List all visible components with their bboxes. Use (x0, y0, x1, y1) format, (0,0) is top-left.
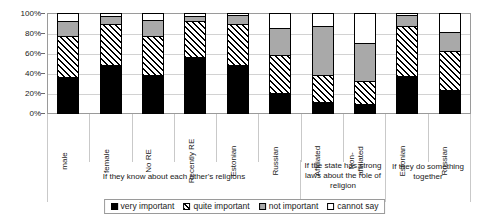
legend-swatch-icon (259, 203, 266, 210)
bar-slot (259, 13, 301, 114)
chart-legend: very important quite important not impor… (104, 199, 386, 214)
bar-segment-very-important (143, 76, 163, 113)
bar-segment-very-important (228, 66, 248, 113)
x-axis-labels: malefemaleNo RERecently REEstonianRussia… (47, 114, 471, 162)
x-label-slot: Estonian (386, 114, 428, 162)
y-tick-label: 100% (21, 10, 41, 18)
bar-segment-not-important (101, 17, 121, 25)
bar-segment-very-important (355, 105, 375, 113)
stacked-bar[interactable] (354, 13, 376, 114)
legend-swatch-icon (327, 203, 334, 210)
x-label-slot: Non- affiliated (344, 114, 386, 162)
group-caption: If they know about each other's religion… (47, 160, 301, 202)
bar-segment-very-important (101, 66, 121, 113)
bar-segment-not-important (313, 27, 333, 77)
bar-segment-cannot-say (440, 14, 460, 33)
y-tick-label: 0% (29, 110, 41, 118)
bar-slot (132, 13, 174, 114)
x-label-slot: Russian (429, 114, 471, 162)
y-tick-label: 40% (25, 70, 41, 78)
x-label-slot: Russian (259, 114, 301, 162)
bar-segment-quite-important (228, 25, 248, 67)
x-label-slot: No RE (133, 114, 175, 162)
bar-segment-very-important (270, 94, 290, 113)
bar-segment-quite-important (58, 37, 78, 79)
stacked-bar[interactable] (184, 13, 206, 114)
bar-segment-cannot-say (313, 14, 333, 27)
bar-segment-cannot-say (143, 14, 163, 21)
bar-slot (386, 13, 428, 114)
bar-segment-quite-important (355, 82, 375, 105)
bar-segment-cannot-say (58, 14, 78, 22)
bars-layer (47, 13, 471, 114)
stacked-bar[interactable] (142, 13, 164, 114)
bar-segment-not-important (270, 29, 290, 56)
y-axis: 100% 80% 60% 40% 20% 0% (0, 6, 44, 121)
bar-segment-very-important (185, 58, 205, 113)
x-label-slot: Recently RE (175, 114, 217, 162)
stacked-bar[interactable] (100, 13, 122, 114)
stacked-bar[interactable] (227, 13, 249, 114)
bar-segment-not-important (228, 16, 248, 25)
legend-item-cannot-say: cannot say (327, 202, 378, 211)
legend-item-quite-important: quite important (183, 202, 249, 211)
stacked-bar[interactable] (439, 13, 461, 114)
bar-segment-quite-important (270, 56, 290, 95)
group-caption: If they do something together (386, 160, 471, 202)
stacked-bar[interactable] (269, 13, 291, 114)
legend-swatch-icon (111, 203, 118, 210)
legend-label: cannot say (337, 202, 378, 211)
x-label-slot: female (90, 114, 132, 162)
bar-segment-cannot-say (355, 14, 375, 44)
y-tick-mark (41, 33, 45, 34)
stacked-bar[interactable] (57, 13, 79, 114)
bar-slot (47, 13, 89, 114)
legend-item-not-important: not important (259, 202, 319, 211)
bar-slot (301, 13, 343, 114)
stacked-bar[interactable] (312, 13, 334, 114)
bar-segment-cannot-say (270, 14, 290, 29)
bar-segment-quite-important (143, 37, 163, 77)
bar-segment-very-important (397, 77, 417, 113)
y-tick-mark (41, 53, 45, 54)
y-tick-label: 80% (25, 30, 41, 38)
bar-segment-not-important (143, 21, 163, 37)
stacked-bar[interactable] (396, 13, 418, 114)
y-tick-mark (41, 13, 45, 14)
group-caption-label: If they know about each other's religion… (103, 161, 246, 182)
legend-swatch-icon (183, 203, 190, 210)
legend-label: not important (269, 202, 319, 211)
y-tick-mark (41, 73, 45, 74)
x-label-slot: Estonian (217, 114, 259, 162)
legend-item-very-important: very important (111, 202, 175, 211)
y-tick-label: 20% (25, 90, 41, 98)
bar-slot (344, 13, 386, 114)
bar-slot (217, 13, 259, 114)
bar-segment-quite-important (440, 52, 460, 92)
y-tick-label: 60% (25, 50, 41, 58)
legend-label: very important (121, 202, 175, 211)
bar-segment-not-important (440, 33, 460, 52)
group-caption-label: If the state has strong laws about the r… (301, 161, 385, 191)
bar-segment-not-important (397, 16, 417, 27)
bar-segment-very-important (313, 103, 333, 113)
y-tick-mark (41, 113, 45, 114)
group-caption: If the state has strong laws about the r… (301, 160, 386, 202)
bar-segment-quite-important (101, 25, 121, 67)
stacked-bar-chart: 100% 80% 60% 40% 20% 0% malefemaleNo RER… (0, 0, 489, 223)
x-label-slot: Affiliated (302, 114, 344, 162)
bar-segment-not-important (58, 22, 78, 37)
x-label-slot: male (47, 114, 90, 162)
bar-segment-quite-important (397, 27, 417, 77)
bar-slot (429, 13, 471, 114)
bar-segment-very-important (58, 78, 78, 113)
group-captions: If they know about each other's religion… (47, 160, 471, 202)
y-tick-mark (41, 93, 45, 94)
bar-segment-quite-important (185, 22, 205, 58)
bar-segment-not-important (355, 44, 375, 83)
bar-slot (89, 13, 131, 114)
bar-segment-very-important (440, 91, 460, 113)
legend-label: quite important (193, 202, 249, 211)
group-caption-label: If they do something together (386, 161, 470, 182)
bar-segment-quite-important (313, 76, 333, 103)
